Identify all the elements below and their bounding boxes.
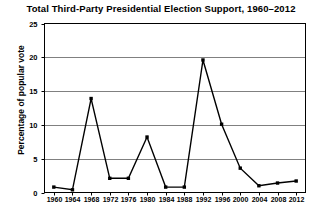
plot-frame [45, 24, 306, 193]
y-tick-label: 5 [16, 155, 38, 164]
data-point-marker [164, 185, 167, 188]
data-point-marker [201, 58, 204, 61]
data-point-marker [108, 177, 111, 180]
data-point-marker [145, 135, 148, 138]
y-tick-label: 25 [16, 20, 38, 29]
data-point-marker [127, 177, 130, 180]
data-point-marker [89, 97, 92, 100]
plot-area [0, 0, 322, 212]
x-tick-label: 2012 [285, 196, 309, 203]
data-point-marker [220, 123, 223, 126]
data-point-marker [276, 181, 279, 184]
data-point-marker [239, 166, 242, 169]
gridlines [45, 58, 306, 160]
y-tick-label: 10 [16, 121, 38, 130]
y-tick-label: 0 [16, 189, 38, 198]
y-tick-label: 20 [16, 53, 38, 62]
data-point-markers [52, 58, 298, 191]
data-point-marker [183, 185, 186, 188]
data-line-series [54, 60, 296, 190]
data-point-marker [71, 188, 74, 191]
chart-container: Total Third-Party Presidential Election … [0, 0, 322, 212]
data-point-marker [257, 184, 260, 187]
data-point-marker [52, 185, 55, 188]
y-tick-label: 15 [16, 87, 38, 96]
data-point-marker [294, 179, 297, 182]
